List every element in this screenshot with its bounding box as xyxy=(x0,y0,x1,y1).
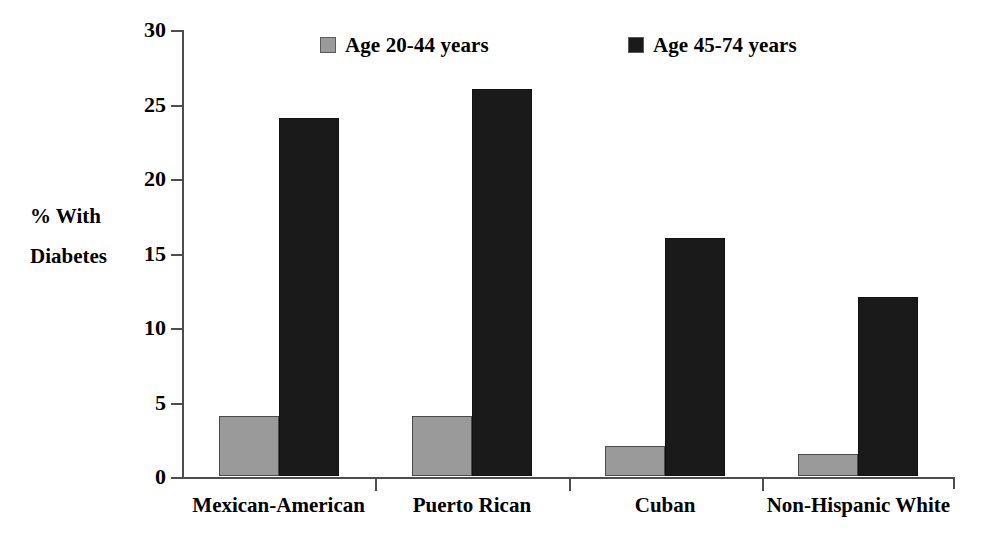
bar-chart: Age 20-44 years Age 45-74 years % With D… xyxy=(0,0,1002,547)
y-axis-line xyxy=(182,30,184,479)
y-axis-tick-label-15: 15 xyxy=(116,243,166,265)
y-axis-tick-20 xyxy=(171,179,182,181)
x-axis-divider xyxy=(569,479,571,491)
y-axis-tick-0 xyxy=(171,477,182,479)
bar xyxy=(472,89,532,476)
x-axis-divider xyxy=(375,479,377,491)
y-axis-tick-label-25: 25 xyxy=(116,94,166,116)
y-axis-tick-10 xyxy=(171,328,182,330)
bar xyxy=(605,446,665,476)
x-axis-category-label: Non-Hispanic White xyxy=(767,493,950,518)
x-axis-category-labels: Mexican-AmericanPuerto RicanCubanNon-His… xyxy=(182,493,955,533)
y-axis-tick-15 xyxy=(171,254,182,256)
y-axis-tick-label-20: 20 xyxy=(116,168,166,190)
y-axis-tick-30 xyxy=(171,30,182,32)
y-axis-tick-25 xyxy=(171,105,182,107)
plot-area: 051015202530 xyxy=(182,30,955,478)
x-axis-end-cap xyxy=(953,477,955,489)
x-axis-divider xyxy=(762,479,764,491)
y-axis-tick-label-0: 0 xyxy=(116,466,166,488)
y-axis-tick-5 xyxy=(171,403,182,405)
y-axis-tick-label-10: 10 xyxy=(116,317,166,339)
x-axis-category-label: Puerto Rican xyxy=(413,493,531,518)
x-axis-category-label: Mexican-American xyxy=(192,493,365,518)
x-axis-category-label: Cuban xyxy=(635,493,696,518)
bar xyxy=(665,238,725,476)
y-axis-tick-label-30: 30 xyxy=(116,19,166,41)
bar xyxy=(219,416,279,476)
bar xyxy=(858,297,918,476)
bar xyxy=(798,454,858,476)
y-axis-title-line-1: % With xyxy=(30,204,101,228)
y-axis-tick-label-5: 5 xyxy=(116,392,166,414)
bar xyxy=(412,416,472,476)
bar xyxy=(279,118,339,476)
